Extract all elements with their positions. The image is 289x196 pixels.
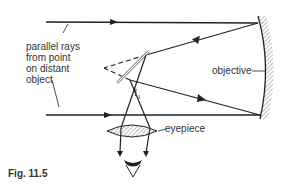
- arrow-right-icon: [110, 19, 118, 25]
- rays-label-line1: parallel rays: [26, 41, 80, 52]
- arrow-right-icon: [104, 112, 112, 118]
- objective-label: objective: [212, 65, 251, 76]
- rays-label-line3: on distant: [26, 63, 69, 74]
- arrow-down-icon: [117, 151, 123, 157]
- image-label-subscript: 1: [137, 93, 141, 101]
- eye-icon: [124, 160, 142, 177]
- plane-mirror: [117, 51, 149, 83]
- rays-label-line2: from point: [26, 52, 70, 63]
- image-label: I1: [134, 87, 141, 103]
- objective-mirror: [258, 16, 274, 119]
- reflected-ray-top: [146, 23, 258, 55]
- eyepiece-label: eyepiece: [165, 123, 205, 134]
- rays-label-line4: object: [26, 74, 53, 85]
- arrow-left-icon: [192, 36, 200, 44]
- figure-caption: Fig. 11.5: [8, 168, 47, 179]
- arrow-down-icon: [143, 151, 149, 157]
- reflected-ray-bottom: [130, 80, 260, 115]
- rays-to-eyepiece: [117, 55, 150, 157]
- ray-pointer-top: [63, 24, 68, 33]
- arrow-left-icon: [197, 94, 206, 102]
- incoming-ray-bottom: [46, 112, 260, 118]
- incoming-ray-top: [46, 19, 258, 25]
- ray-pointer-bottom: [52, 80, 59, 107]
- telescope-diagram: [0, 0, 289, 196]
